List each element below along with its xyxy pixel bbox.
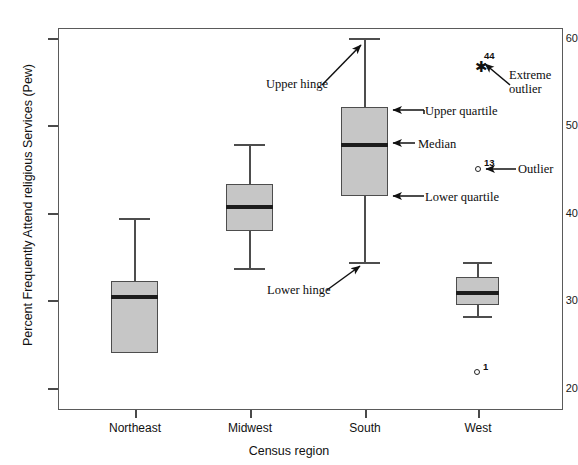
x-tick-midwest	[250, 410, 252, 418]
x-tick-label-south: South	[305, 421, 425, 435]
x-tick-label-northeast: Northeast	[75, 421, 195, 435]
extreme-outlier-value-label: 44	[484, 51, 495, 61]
y-tick-40	[48, 213, 58, 215]
whisker-cap-lower-west	[463, 316, 492, 318]
annotation-lower-quartile: Lower quartile	[425, 190, 499, 204]
whisker-lower-midwest	[249, 231, 251, 269]
x-tick-label-west: West	[418, 421, 538, 435]
x-tick-west	[478, 410, 480, 418]
whisker-upper-south	[364, 39, 366, 107]
y-tick-50	[48, 125, 58, 127]
x-tick-south	[365, 410, 367, 418]
outlier-value-label: 13	[484, 158, 495, 168]
annotation-median: Median	[418, 137, 456, 151]
whisker-lower-south	[364, 196, 366, 263]
y-tick-60	[48, 38, 58, 40]
whisker-cap-upper-northeast	[119, 218, 150, 220]
median-west	[456, 291, 499, 295]
extreme-outlier-marker: ✱	[475, 60, 488, 75]
x-axis-title: Census region	[0, 444, 578, 458]
annotation-extreme-outlier: Extreme outlier	[509, 68, 571, 96]
median-midwest	[226, 205, 273, 209]
whisker-upper-west	[477, 263, 479, 277]
whisker-cap-lower-south	[349, 262, 380, 264]
y-tick-30	[48, 300, 58, 302]
box-northeast	[111, 281, 158, 353]
whisker-upper-northeast	[134, 219, 136, 281]
whisker-upper-midwest	[249, 145, 251, 184]
annotation-lower-hinge: Lower hinge	[267, 283, 331, 297]
annotation-upper-hinge: Upper hinge	[266, 77, 328, 91]
whisker-cap-upper-west	[463, 262, 492, 264]
median-south	[341, 143, 388, 147]
outlier-label-west: 1	[483, 362, 488, 372]
x-tick-label-midwest: Midwest	[190, 421, 310, 435]
annotation-upper-quartile: Upper quartile	[425, 104, 498, 118]
whisker-cap-upper-midwest	[234, 144, 265, 146]
whisker-cap-upper-south	[349, 38, 380, 40]
boxplot-figure: 60 50 40 30 20 Percent Frequently Attend…	[0, 0, 578, 465]
annotation-outlier: Outlier	[518, 162, 553, 176]
whisker-cap-lower-midwest	[234, 268, 265, 270]
median-northeast	[111, 295, 158, 299]
outlier-marker	[475, 166, 481, 172]
x-tick-northeast	[135, 410, 137, 418]
box-south	[341, 107, 388, 196]
y-tick-20	[48, 388, 58, 390]
outlier-marker-west	[474, 369, 480, 375]
y-axis-title: Percent Frequently Attend religious Serv…	[21, 40, 35, 370]
